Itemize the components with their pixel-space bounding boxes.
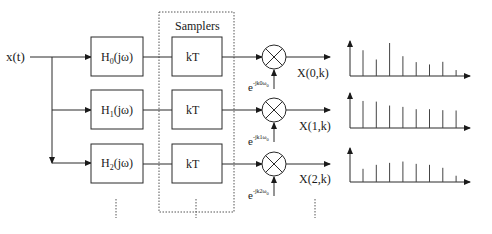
filter-bank-diagram: x(t) Samplers H0(jω) kT e-jk0ω0 X(0,k) H… (0, 0, 492, 234)
stem-plot-1 (350, 93, 470, 128)
branch-2: H2(jω) kT e-jk2ω0 X(2,k) (52, 144, 331, 201)
sampler-label-2: kT (186, 157, 200, 171)
modulator-label-0: e-jk0ω0 (248, 80, 270, 93)
sampler-label-1: kT (186, 103, 200, 117)
input-label: x(t) (6, 49, 25, 64)
stem-plot-0 (350, 41, 470, 76)
output-label-0: X(0,k) (297, 66, 329, 80)
output-label-2: X(2,k) (299, 172, 331, 186)
filter-label-0: H0(jω) (101, 50, 133, 66)
branch-1: H1(jω) kT e-jk1ω0 X(1,k) (52, 90, 331, 147)
samplers-label: Samplers (175, 19, 220, 33)
multiplier-icon (262, 152, 286, 176)
multiplier-icon (262, 98, 286, 122)
filter-label-2: H2(jω) (101, 156, 133, 172)
filter-label-1: H1(jω) (101, 103, 133, 119)
branch-0: H0(jω) kT e-jk0ω0 X(0,k) (52, 37, 330, 93)
sampler-label-0: kT (186, 50, 200, 64)
stem-plot-2 (350, 148, 470, 182)
modulator-label-1: e-jk1ω0 (248, 134, 270, 147)
modulator-label-2: e-jk2ω0 (248, 188, 270, 201)
multiplier-icon (262, 45, 286, 69)
output-label-1: X(1,k) (299, 119, 331, 133)
